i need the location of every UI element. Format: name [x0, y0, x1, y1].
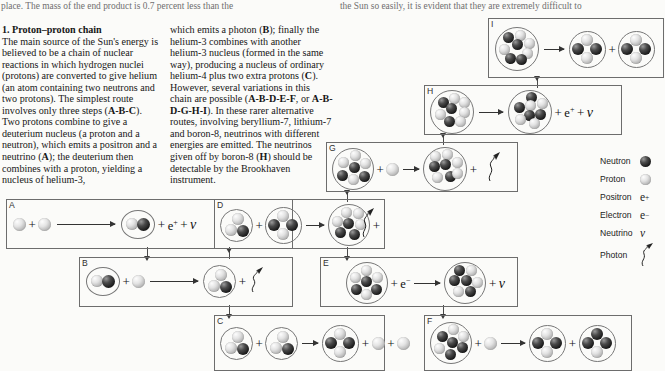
plus-sign: + — [472, 337, 484, 350]
helium-3-nucleus — [265, 327, 298, 360]
legend-item-positron: Positron e+ — [600, 188, 665, 206]
neutron-sphere — [429, 161, 440, 172]
neutron-sphere — [449, 275, 460, 286]
reaction-arrow — [57, 224, 115, 225]
legend-item-photon: Photon — [600, 242, 665, 268]
legend-item-neutron: Neutron — [600, 152, 665, 170]
proton-sphere — [208, 280, 220, 292]
neutron-sphere — [359, 171, 370, 182]
panel-a-label: A — [9, 200, 15, 210]
plus-sign: + — [552, 106, 564, 119]
proton-sphere — [225, 342, 237, 354]
legend-label-positron: Positron — [600, 192, 640, 202]
plus-sign: + — [374, 163, 386, 176]
proton-sphere — [350, 272, 361, 283]
boron-8-nucleus — [430, 90, 474, 134]
proton-sphere — [13, 218, 26, 231]
reaction-arrow — [414, 283, 440, 284]
beryllium-7-nucleus — [346, 262, 388, 304]
neutron-sphere — [444, 116, 455, 127]
neutron-sphere — [640, 156, 651, 167]
panel-e-label: E — [323, 258, 329, 268]
proton-sphere — [458, 331, 469, 342]
proton-sphere — [455, 116, 466, 127]
neutron-sphere — [590, 43, 602, 55]
panel-g-reaction: + + — [332, 147, 508, 191]
panel-b: B + + — [79, 257, 293, 307]
neutron-icon — [640, 156, 662, 167]
neutron-sphere — [137, 218, 150, 231]
neutron-sphere — [457, 342, 468, 353]
legend: Neutron Proton Positron e+ Electron e− N… — [600, 152, 665, 268]
beryllium-7-nucleus — [332, 148, 374, 190]
neutron-sphere — [349, 162, 360, 173]
panel-e: E + e− + ν — [320, 257, 518, 307]
panel-f-reaction: + + — [430, 322, 616, 364]
plus-sign: + — [253, 337, 265, 350]
panel-g: G + + — [326, 142, 518, 192]
lithium-7-nucleus — [444, 262, 486, 304]
proton-sphere — [232, 331, 244, 343]
positron-icon: e+ — [640, 191, 662, 203]
proton-sphere — [361, 289, 372, 300]
panel-b-reaction: + + — [86, 265, 271, 298]
neutron-sphere — [102, 275, 115, 288]
proton-sphere — [225, 224, 237, 236]
plus-sign: + — [236, 275, 248, 288]
proton-sphere — [277, 228, 289, 240]
neutron-sphere — [371, 284, 382, 295]
neutron-sphere — [514, 102, 525, 113]
neutron-sphere — [286, 219, 298, 231]
proton-sphere — [361, 265, 372, 276]
panel-a-reaction: + + e+ + ν — [13, 210, 196, 239]
panel-h-reaction: + e+ + ν — [430, 90, 593, 134]
proton-sphere — [591, 346, 603, 358]
helium-3-nucleus — [220, 327, 253, 360]
legend-label-photon: Photon — [600, 250, 640, 260]
proton-sphere — [452, 157, 463, 168]
proton-sphere — [360, 158, 371, 169]
neutrino-label: ν — [499, 277, 505, 290]
neutron-sphere — [440, 159, 451, 170]
proton-sphere — [630, 52, 642, 64]
panel-h: H + — [424, 85, 622, 135]
legend-item-neutrino: Neutrino ν — [600, 224, 665, 242]
legend-label-electron: Electron — [600, 210, 640, 220]
legend-item-electron: Electron e− — [600, 206, 665, 224]
proton-sphere — [277, 331, 289, 343]
proton-sphere — [332, 216, 343, 227]
proton-sphere — [132, 275, 145, 288]
panel-i-reaction: + — [495, 27, 655, 71]
proton-sphere — [386, 163, 399, 176]
neutron-sphere — [237, 225, 249, 237]
proton-sphere — [537, 98, 548, 109]
plus-sign: + — [388, 277, 400, 290]
positron-label: e+ — [564, 103, 574, 120]
reaction-arrow — [544, 49, 564, 50]
plus-sign: + — [26, 218, 38, 231]
plus-sign: + — [606, 43, 618, 56]
panel-c: C + + + — [214, 315, 385, 371]
panel-d-reaction: + + — [220, 204, 383, 246]
helium-4-nucleus — [569, 31, 606, 68]
proton-sphere — [372, 337, 385, 350]
proton-sphere — [541, 346, 553, 358]
neutron-sphere — [349, 229, 360, 240]
plus-sign: + — [566, 337, 578, 350]
panel-d-photon — [360, 208, 382, 242]
proton-sphere — [215, 269, 227, 281]
proton-sphere — [232, 213, 244, 225]
neutron-sphere — [335, 227, 346, 238]
panel-d: D + + — [214, 199, 385, 249]
proton-sphere — [372, 272, 383, 283]
neutrino-label: ν — [587, 106, 593, 119]
photon-squiggle — [640, 243, 658, 267]
deuterium-nucleus — [86, 267, 120, 296]
neutrino-label: ν — [190, 218, 196, 231]
helium-4-nucleus — [529, 325, 566, 362]
legend-label-neutrino: Neutrino — [600, 228, 640, 238]
deuterium-nucleus — [121, 210, 155, 239]
reaction-arrow — [306, 225, 324, 226]
neutron-sphere — [600, 337, 612, 349]
